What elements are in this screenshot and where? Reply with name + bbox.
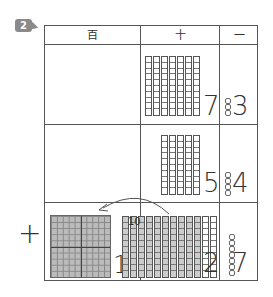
ten-rod [185, 56, 192, 116]
one-unit [225, 110, 231, 116]
header-ones: 一 [220, 26, 258, 45]
ten-rod [193, 135, 200, 195]
ten-rod [178, 216, 185, 278]
one-unit [225, 172, 231, 178]
ten-rod [194, 216, 201, 278]
ten-rod [169, 135, 176, 195]
ten-rod [161, 56, 168, 116]
header-hundreds: 百 [45, 26, 140, 45]
ones-digit-sum: 7 [232, 250, 249, 276]
tens-digit-sum: 2 [203, 250, 220, 276]
ten-rod [162, 216, 169, 278]
ten-rod [186, 216, 193, 278]
one-unit [225, 104, 231, 110]
tens-digit-row1: 7 [203, 93, 220, 119]
ten-rod [185, 135, 192, 195]
ten-rod [169, 56, 176, 116]
plus-operator: + [18, 220, 41, 248]
ten-rod [153, 56, 160, 116]
ten-rod [170, 216, 177, 278]
one-unit [225, 190, 231, 196]
divider [219, 26, 220, 280]
one-unit [225, 98, 231, 104]
ten-rod [193, 56, 200, 116]
ten-rod [161, 135, 168, 195]
ten-rod [146, 216, 153, 278]
carry-arrow-icon [95, 190, 175, 220]
one-unit [225, 178, 231, 184]
ones-digit-row1: 3 [232, 93, 249, 119]
ten-rod [145, 56, 152, 116]
ones-digit-row2: 4 [232, 170, 249, 196]
tens-digit-row2: 5 [203, 170, 220, 196]
ten-rod [154, 216, 161, 278]
ten-rod [177, 135, 184, 195]
divider [45, 124, 257, 125]
one-unit [225, 184, 231, 190]
one-unit [229, 240, 235, 246]
one-unit [229, 234, 235, 240]
header-tens: 十 [141, 26, 219, 45]
hundred-flat [50, 215, 111, 278]
ten-rod [177, 56, 184, 116]
problem-number-badge: 2 [15, 19, 32, 32]
